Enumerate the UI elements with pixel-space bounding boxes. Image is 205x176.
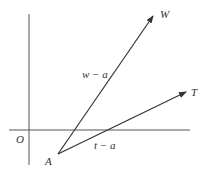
label-origin: O [16, 134, 24, 145]
label-t: T [191, 87, 197, 98]
vector-t-minus-a [58, 92, 186, 154]
label-t-minus-a: t − a [94, 140, 115, 151]
vector-diagram: W T w − a t − a O A [0, 0, 205, 176]
vector-w-minus-a [58, 16, 153, 154]
label-w: W [160, 9, 169, 20]
label-w-minus-a: w − a [82, 69, 108, 80]
label-a: A [45, 156, 52, 167]
